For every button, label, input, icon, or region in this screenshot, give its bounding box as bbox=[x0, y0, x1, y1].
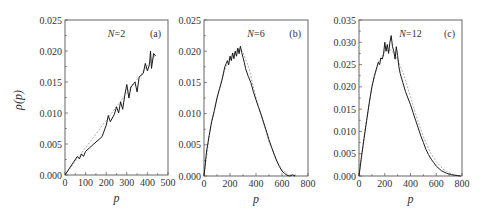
x-tick-label: 100 bbox=[78, 177, 93, 188]
x-tick-label: 200 bbox=[223, 178, 238, 189]
panel-tag: (b) bbox=[289, 28, 301, 40]
x-tick-label: 400 bbox=[249, 178, 264, 189]
x-tick-label: 0 bbox=[202, 178, 207, 189]
y-tick-label: 0.020 bbox=[40, 46, 63, 57]
simulation-curve bbox=[65, 51, 156, 175]
y-tick-label: 0.000 bbox=[179, 171, 202, 182]
n-annotation: N=2 bbox=[107, 28, 125, 39]
panel-tag: (a) bbox=[150, 28, 161, 40]
panel-c-n12: 0.0000.0050.0100.0150.0200.0250.0300.035… bbox=[334, 15, 470, 207]
x-tick-label: 800 bbox=[455, 178, 470, 189]
x-tick-label: 600 bbox=[275, 178, 290, 189]
y-tick-label: 0.000 bbox=[334, 171, 357, 182]
y-tick-label: 0.010 bbox=[334, 126, 357, 137]
x-tick-label: 300 bbox=[119, 177, 134, 188]
y-axis-title: ρ(p) bbox=[11, 90, 25, 111]
y-tick-label: 0.025 bbox=[40, 15, 63, 26]
panel-a-n2: 0.0000.0050.0100.0150.0200.0250100200300… bbox=[40, 15, 176, 206]
y-tick-label: 0.000 bbox=[40, 170, 63, 181]
x-tick-label: 400 bbox=[140, 177, 155, 188]
x-tick-label: 400 bbox=[403, 178, 418, 189]
x-axis-title: p bbox=[407, 192, 414, 206]
plot-frame bbox=[359, 20, 462, 176]
y-tick-label: 0.010 bbox=[40, 108, 63, 119]
y-tick-label: 0.005 bbox=[334, 148, 357, 159]
x-tick-label: 500 bbox=[161, 177, 176, 188]
plot-frame bbox=[65, 20, 168, 175]
simulation-curve bbox=[204, 46, 295, 176]
panel-b-n6: 0.0000.0050.0100.0150.0200.0250200400600… bbox=[179, 15, 316, 207]
theory-curve bbox=[204, 49, 295, 176]
x-tick-label: 600 bbox=[429, 178, 444, 189]
y-tick-label: 0.025 bbox=[179, 15, 202, 26]
y-tick-label: 0.010 bbox=[179, 108, 202, 119]
theory-curve bbox=[359, 50, 462, 176]
x-tick-label: 0 bbox=[63, 177, 68, 188]
y-tick-label: 0.025 bbox=[334, 59, 357, 70]
y-tick-label: 0.030 bbox=[334, 37, 357, 48]
x-axis-title: p bbox=[113, 191, 120, 205]
x-tick-label: 0 bbox=[357, 178, 362, 189]
x-axis-title: p bbox=[252, 192, 259, 206]
y-tick-label: 0.015 bbox=[179, 77, 202, 88]
n-annotation: N=12 bbox=[398, 28, 421, 39]
y-tick-label: 0.015 bbox=[334, 104, 357, 115]
figure-canvas: ρ(p) 0.0000.0050.0100.0150.0200.02501002… bbox=[0, 0, 483, 216]
y-tick-label: 0.035 bbox=[334, 15, 357, 26]
x-tick-label: 800 bbox=[301, 178, 316, 189]
x-tick-label: 200 bbox=[99, 177, 114, 188]
theory-curve bbox=[65, 55, 156, 175]
panel-tag: (c) bbox=[444, 28, 455, 40]
y-tick-label: 0.020 bbox=[179, 46, 202, 57]
n-annotation: N=6 bbox=[246, 28, 264, 39]
y-tick-label: 0.005 bbox=[179, 139, 202, 150]
simulation-curve bbox=[359, 36, 461, 176]
x-tick-label: 200 bbox=[377, 178, 392, 189]
y-tick-label: 0.015 bbox=[40, 77, 63, 88]
y-tick-label: 0.020 bbox=[334, 81, 357, 92]
y-tick-label: 0.005 bbox=[40, 139, 63, 150]
